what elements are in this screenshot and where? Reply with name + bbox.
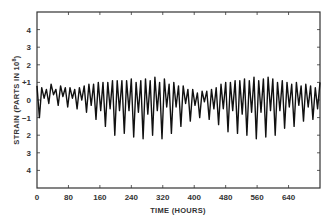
x-axis-ticks: 080160240320400480560640 [35, 12, 296, 202]
x-tick-label: 400 [188, 193, 202, 202]
x-tick-label: 0 [35, 193, 40, 202]
y-tick-label: −1 [22, 114, 32, 123]
x-tick-label: 640 [282, 193, 296, 202]
y-tick-label: 3 [27, 43, 32, 52]
x-tick-label: 320 [156, 193, 170, 202]
x-tick-label: 160 [93, 193, 107, 202]
x-tick-label: 80 [64, 193, 73, 202]
y-tick-label: 2 [27, 131, 32, 140]
x-tick-label: 480 [219, 193, 233, 202]
y-tick-label: 3 [27, 149, 32, 158]
strain-series [37, 77, 320, 139]
y-tick-label: 2 [27, 61, 32, 70]
strain-line [37, 77, 320, 139]
x-axis-title: TIME (HOURS) [150, 206, 206, 215]
x-tick-label: 560 [250, 193, 264, 202]
y-axis-title: STRAIN (PARTS IN 108) [11, 55, 21, 144]
strain-time-chart: 080160240320400480560640 432+10−1234 TIM… [0, 0, 329, 221]
y-tick-label: 4 [27, 166, 32, 175]
y-tick-label: 4 [27, 26, 32, 35]
plot-frame [37, 12, 320, 188]
x-tick-label: 240 [125, 193, 139, 202]
y-tick-label: 0 [27, 96, 32, 105]
y-tick-label: +1 [22, 78, 32, 87]
